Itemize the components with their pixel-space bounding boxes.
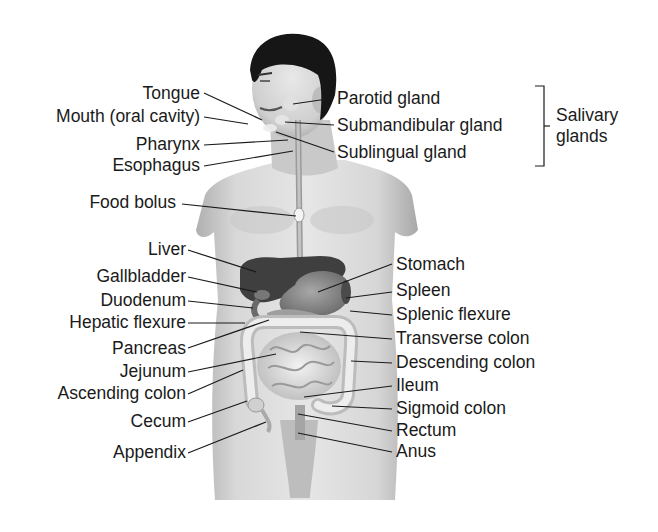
label-mouth: Mouth (oral cavity) [56, 106, 200, 126]
label-pancreas: Pancreas [112, 338, 186, 358]
salivary-glands-line1: Salivary [556, 105, 618, 126]
salivary-glands-line2: glands [556, 126, 618, 147]
label-splenic-flexure: Splenic flexure [396, 304, 511, 324]
label-gallbladder: Gallbladder [97, 266, 187, 286]
label-jejunum: Jejunum [120, 361, 186, 381]
label-food-bolus: Food bolus [89, 192, 176, 212]
label-submandibular-gland: Submandibular gland [337, 115, 502, 135]
label-spleen: Spleen [396, 280, 451, 300]
label-appendix: Appendix [113, 442, 186, 462]
label-descending-colon: Descending colon [396, 352, 535, 372]
label-esophagus: Esophagus [112, 155, 200, 175]
label-anus: Anus [396, 441, 436, 461]
label-stomach: Stomach [396, 254, 465, 274]
label-ascending-colon: Ascending colon [58, 383, 186, 403]
label-duodenum: Duodenum [100, 290, 186, 310]
label-tongue: Tongue [143, 83, 200, 103]
label-transverse-colon: Transverse colon [396, 328, 530, 348]
label-sublingual-gland: Sublingual gland [337, 142, 466, 162]
label-rectum: Rectum [396, 420, 456, 440]
label-liver: Liver [148, 239, 186, 259]
label-salivary-glands-group: Salivary glands [556, 105, 618, 147]
label-cecum: Cecum [131, 411, 186, 431]
label-ileum: Ileum [396, 375, 439, 395]
label-parotid-gland: Parotid gland [337, 88, 440, 108]
label-hepatic-flexure: Hepatic flexure [69, 312, 186, 332]
label-sigmoid-colon: Sigmoid colon [396, 398, 506, 418]
label-pharynx: Pharynx [136, 134, 200, 154]
